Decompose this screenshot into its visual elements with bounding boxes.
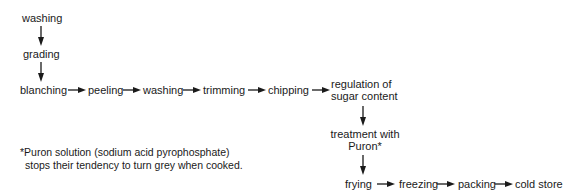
arrow-right-icon (123, 86, 141, 94)
footnote-line: stops their tendency to turn grey when c… (20, 159, 243, 172)
step-trimming: trimming (203, 84, 245, 96)
arrow-right-icon (248, 86, 266, 94)
step-freezing: freezing (399, 178, 438, 190)
step-frying: frying (345, 178, 372, 190)
step-grading: grading (23, 48, 60, 60)
step-washing-2: washing (143, 84, 183, 96)
step-chipping: chipping (268, 84, 309, 96)
step-blanching: blanching (20, 84, 67, 96)
step-treatment-with-puron: treatment with Puron* (325, 128, 405, 152)
arrow-right-icon (377, 180, 395, 188)
step-label-line: sugar content (331, 90, 398, 102)
arrow-right-icon (183, 86, 201, 94)
step-washing: washing (22, 12, 62, 24)
step-peeling: peeling (88, 84, 123, 96)
arrow-right-icon (68, 86, 86, 94)
step-regulation-of-sugar-content: regulation of sugar content (331, 78, 398, 102)
arrow-right-icon (437, 180, 455, 188)
footnote-line: *Puron solution (sodium acid pyrophospha… (20, 146, 243, 159)
step-label-line: Puron* (325, 140, 405, 152)
footnote: *Puron solution (sodium acid pyrophospha… (20, 146, 243, 172)
step-label-line: regulation of (331, 78, 398, 90)
step-cold-store: cold store (515, 178, 563, 190)
arrow-down-icon (359, 155, 367, 175)
arrow-right-icon (495, 180, 513, 188)
arrow-down-icon (359, 106, 367, 126)
arrow-down-icon (37, 26, 45, 46)
step-label-line: treatment with (325, 128, 405, 140)
step-packing: packing (458, 178, 496, 190)
arrow-right-icon (312, 86, 330, 94)
arrow-down-icon (37, 62, 45, 82)
